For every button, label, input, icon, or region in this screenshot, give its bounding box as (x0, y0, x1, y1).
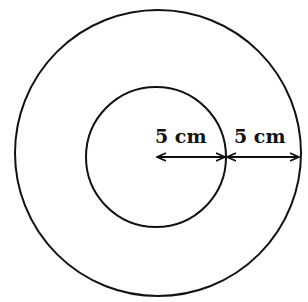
outer-circle (15, 10, 301, 296)
concentric-circles-diagram: 5 cm 5 cm (0, 0, 308, 302)
ring-width-label: 5 cm (234, 125, 286, 147)
inner-radius-label: 5 cm (155, 125, 207, 147)
